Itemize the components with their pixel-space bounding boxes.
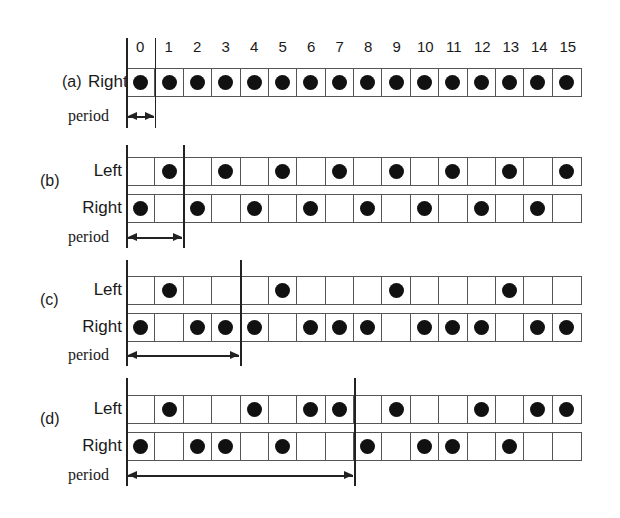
slot-cell (127, 433, 155, 460)
slot-cell (382, 396, 410, 423)
period-arrow (128, 355, 239, 357)
pulse-dot (162, 75, 177, 90)
slot-cell (553, 314, 581, 341)
right-label: Right (72, 317, 122, 337)
slot-cell (212, 69, 240, 96)
pulse-dot (275, 164, 290, 179)
slot-cell (468, 69, 496, 96)
slot-cell (468, 314, 496, 341)
period-arrow (128, 475, 353, 477)
slot-cell (382, 277, 410, 304)
period-label: period (68, 466, 109, 484)
pulse-dot (474, 320, 489, 335)
slot-cell (184, 396, 212, 423)
column-number: 2 (183, 38, 212, 55)
pulse-dot (530, 402, 545, 417)
slot-cell (269, 314, 297, 341)
slot-cell (212, 314, 240, 341)
pulse-dot (530, 201, 545, 216)
slot-cell (411, 277, 439, 304)
slot-cell (553, 158, 581, 185)
slot-cell (241, 69, 269, 96)
slot-cell (524, 277, 552, 304)
section-label: (d) (40, 410, 60, 428)
slot-cell (241, 433, 269, 460)
slot-cell (326, 314, 354, 341)
pulse-dot (559, 320, 574, 335)
slot-cell (382, 314, 410, 341)
slot-cell (241, 158, 269, 185)
slot-cell (468, 195, 496, 222)
pulse-dot (360, 201, 375, 216)
slot-cell (468, 158, 496, 185)
slot-cell (524, 195, 552, 222)
pulse-dot (417, 201, 432, 216)
slot-cell (496, 195, 524, 222)
slot-cell (354, 195, 382, 222)
pulse-dot (502, 164, 517, 179)
slot-cell (382, 158, 410, 185)
slot-cell (411, 158, 439, 185)
left-label: Left (72, 161, 122, 181)
slot-cell (155, 433, 183, 460)
slot-cell (411, 433, 439, 460)
slot-cell (439, 396, 467, 423)
right-label: Right (72, 198, 122, 218)
pulse-dot (559, 402, 574, 417)
slot-cell (184, 277, 212, 304)
slot-cell (439, 433, 467, 460)
slot-cell (184, 69, 212, 96)
section-label: (a) (62, 73, 82, 91)
pulse-dot (360, 75, 375, 90)
slot-cell (524, 314, 552, 341)
pulse-dot (162, 283, 177, 298)
pulse-dot (530, 320, 545, 335)
pulse-dot (303, 201, 318, 216)
slot-cell (212, 195, 240, 222)
slot-cell (354, 69, 382, 96)
slot-cell (212, 277, 240, 304)
pulse-dot (247, 320, 262, 335)
slot-cell (354, 433, 382, 460)
slot-cell (354, 277, 382, 304)
pulse-dot (303, 402, 318, 417)
column-number: 0 (126, 38, 155, 55)
pulse-dot (133, 75, 148, 90)
slot-cell (297, 69, 325, 96)
pulse-dot (360, 320, 375, 335)
period-label: period (68, 107, 109, 125)
pulse-dot (445, 320, 460, 335)
column-number: 9 (383, 38, 412, 55)
slot-cell (496, 277, 524, 304)
slot-cell (269, 195, 297, 222)
pulse-dot (332, 164, 347, 179)
pulse-dot (190, 320, 205, 335)
pulse-dot (218, 75, 233, 90)
pulse-dot (502, 75, 517, 90)
pulse-dot (190, 439, 205, 454)
column-number: 10 (411, 38, 440, 55)
slot-cell (439, 277, 467, 304)
slot-cell (496, 158, 524, 185)
slot-cell (127, 69, 155, 96)
pulse-dot (247, 201, 262, 216)
pulse-dot (389, 402, 404, 417)
slot-cell (127, 396, 155, 423)
slot-cell (411, 314, 439, 341)
right-label: Right (72, 436, 122, 456)
column-number: 8 (354, 38, 383, 55)
slot-cell (241, 396, 269, 423)
pulse-dot (133, 320, 148, 335)
slot-cell (326, 158, 354, 185)
slot-cell (269, 158, 297, 185)
pulse-dot (389, 283, 404, 298)
slot-cell (269, 277, 297, 304)
column-number: 13 (497, 38, 526, 55)
pulse-dot (218, 164, 233, 179)
pulse-dot (162, 402, 177, 417)
slot-cell (411, 396, 439, 423)
slot-cell (524, 158, 552, 185)
pulse-dot (502, 283, 517, 298)
pulse-dot (190, 201, 205, 216)
pulse-dot (332, 320, 347, 335)
